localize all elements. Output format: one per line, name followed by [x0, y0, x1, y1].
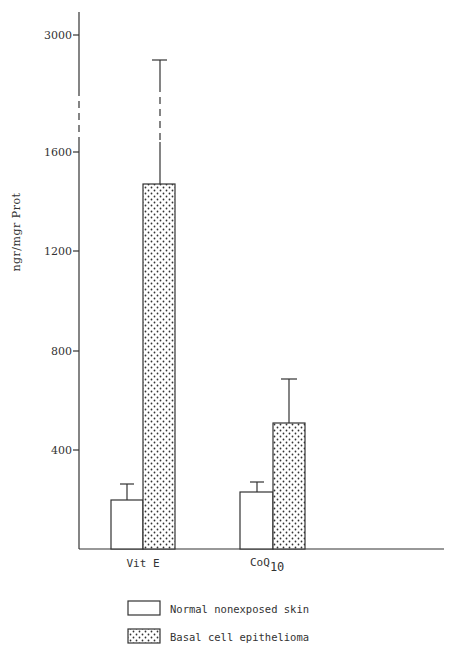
ytick-label: 800: [51, 345, 72, 358]
legend-label-basal: Basal cell epithelioma: [170, 631, 309, 643]
ytick-label: 3000: [44, 29, 72, 42]
bar-basal-vit-e: [143, 184, 175, 549]
bar-normal-vit-e: [111, 500, 143, 549]
bar-basal-coq10: [273, 423, 305, 549]
legend-label-normal: Normal nonexposed skin: [170, 603, 309, 615]
x-category-label: CoQ10: [250, 556, 284, 574]
ytick-label: 1200: [44, 245, 72, 258]
ytick-label: 1600: [44, 146, 72, 159]
bar-group-vit-e: Vit E: [111, 60, 175, 570]
legend-swatch-basal: [128, 629, 160, 643]
bar-chart: 3000 1600 1200 800 400 ngr/mgr Prot Vit …: [0, 0, 463, 664]
bar-normal-coq10: [240, 492, 273, 549]
y-axis: 3000 1600 1200 800 400: [44, 12, 79, 549]
bar-group-coq10: CoQ10: [240, 379, 305, 574]
ytick-label: 400: [51, 444, 72, 457]
legend-swatch-normal: [128, 601, 160, 615]
legend: Normal nonexposed skin Basal cell epithe…: [128, 601, 309, 643]
y-axis-label: ngr/mgr Prot: [10, 192, 23, 271]
x-category-label: Vit E: [126, 557, 159, 570]
